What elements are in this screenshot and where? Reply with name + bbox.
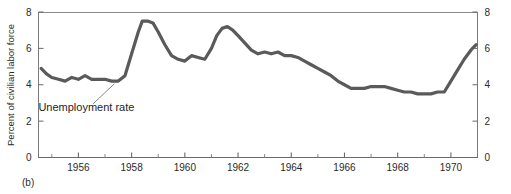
y-tick-label-8: 8: [26, 7, 32, 18]
y-tick-label-right-4: 4: [485, 79, 491, 90]
y-tick-label-2: 2: [26, 116, 32, 127]
plot-background: [38, 12, 478, 157]
x-tick-label-1960: 1960: [174, 162, 197, 173]
x-tick-label-1968: 1968: [387, 162, 410, 173]
figure-panel: 02468 02468 1956195819601962196419661968…: [0, 0, 511, 194]
plot-frame: [38, 12, 478, 158]
x-tick-label-1964: 1964: [280, 162, 303, 173]
y-tick-label-0: 0: [26, 152, 32, 163]
y-tick-label-6: 6: [26, 43, 32, 54]
y-tick-label-right-2: 2: [485, 116, 491, 127]
y-tick-label-right-6: 6: [485, 43, 491, 54]
y-tick-label-right-8: 8: [485, 7, 491, 18]
annotation-unemployment-rate-label: Unemployment rate: [38, 101, 134, 113]
y-tick-label-right-0: 0: [485, 152, 491, 163]
y-axis-labels-right: 02468: [485, 7, 491, 164]
y-tick-label-4: 4: [26, 79, 32, 90]
y-axis-labels-left: 02468: [26, 7, 32, 164]
x-axis-labels: 19561958196019621964196619681970: [67, 162, 462, 173]
x-tick-label-1966: 1966: [333, 162, 356, 173]
x-tick-label-1962: 1962: [227, 162, 250, 173]
panel-label: (b): [22, 177, 34, 188]
y-axis-title-group: Percent of civilian labor force: [5, 24, 16, 146]
x-tick-label-1958: 1958: [120, 162, 143, 173]
unemployment-rate-line-chart: 02468 02468 1956195819601962196419661968…: [0, 0, 511, 194]
y-axis-title: Percent of civilian labor force: [5, 24, 16, 146]
x-tick-label-1970: 1970: [440, 162, 463, 173]
x-tick-label-1956: 1956: [67, 162, 90, 173]
